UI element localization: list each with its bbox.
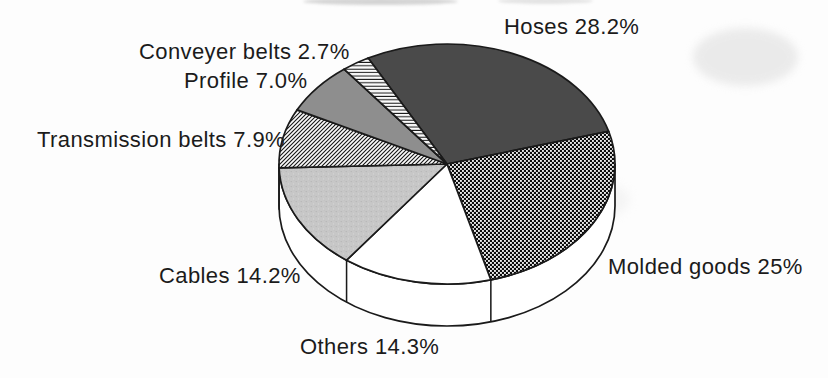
- slice-label-cables: Cables 14.2%: [159, 264, 301, 287]
- slice-label-transmission-belts: Transmission belts 7.9%: [37, 128, 285, 151]
- slice-label-profile: Profile 7.0%: [184, 69, 307, 92]
- pie-chart-3d: [0, 0, 828, 378]
- slice-label-hoses: Hoses 28.2%: [504, 15, 639, 38]
- slice-label-conveyer-belts: Conveyer belts 2.7%: [139, 40, 350, 63]
- slice-label-molded-goods: Molded goods 25%: [608, 255, 803, 278]
- figure-page: Hoses 28.2% Molded goods 25% Others 14.3…: [0, 0, 828, 378]
- slice-label-others: Others 14.3%: [300, 335, 439, 358]
